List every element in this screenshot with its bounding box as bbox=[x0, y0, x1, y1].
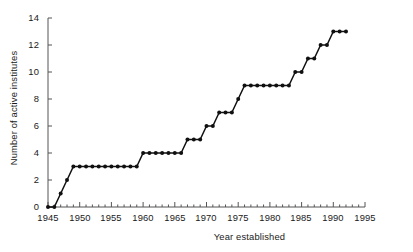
data-series bbox=[46, 30, 348, 210]
data-point-1960 bbox=[141, 151, 145, 155]
data-point-1951 bbox=[84, 165, 88, 169]
data-point-1952 bbox=[90, 165, 94, 169]
data-point-1946 bbox=[52, 205, 56, 209]
chart-figure: Number of active institutes 14 12 10 8 6… bbox=[0, 0, 413, 252]
data-point-1966 bbox=[179, 151, 183, 155]
data-point-1988 bbox=[319, 43, 323, 47]
data-point-1953 bbox=[97, 165, 101, 169]
data-point-1958 bbox=[128, 165, 132, 169]
axes bbox=[48, 18, 365, 207]
data-point-1978 bbox=[255, 84, 259, 88]
data-point-1968 bbox=[192, 138, 196, 142]
data-point-1949 bbox=[71, 165, 75, 169]
data-point-1970 bbox=[205, 124, 209, 128]
data-point-1964 bbox=[166, 151, 170, 155]
data-point-1985 bbox=[300, 70, 304, 74]
data-point-1948 bbox=[65, 178, 69, 182]
y-axis-ticks bbox=[48, 18, 52, 207]
data-point-1973 bbox=[224, 111, 228, 115]
data-point-1945 bbox=[46, 205, 50, 209]
data-point-1972 bbox=[217, 111, 221, 115]
data-point-1954 bbox=[103, 165, 107, 169]
data-point-1980 bbox=[268, 84, 272, 88]
data-point-1981 bbox=[274, 84, 278, 88]
data-point-1974 bbox=[230, 111, 234, 115]
data-point-1947 bbox=[59, 192, 63, 196]
data-point-1983 bbox=[287, 84, 291, 88]
data-point-1969 bbox=[198, 138, 202, 142]
data-point-1977 bbox=[249, 84, 253, 88]
data-point-1976 bbox=[243, 84, 247, 88]
data-point-1984 bbox=[293, 70, 297, 74]
data-point-1961 bbox=[147, 151, 151, 155]
data-point-1955 bbox=[109, 165, 113, 169]
data-point-1991 bbox=[338, 30, 342, 34]
data-point-1990 bbox=[331, 30, 335, 34]
data-point-1965 bbox=[173, 151, 177, 155]
data-point-1959 bbox=[135, 165, 139, 169]
series-markers bbox=[46, 30, 348, 210]
data-point-1963 bbox=[160, 151, 164, 155]
data-point-1975 bbox=[236, 97, 240, 101]
data-point-1962 bbox=[154, 151, 158, 155]
data-point-1957 bbox=[122, 165, 126, 169]
data-point-1989 bbox=[325, 43, 329, 47]
plot-area bbox=[0, 0, 413, 252]
data-point-1956 bbox=[116, 165, 120, 169]
series-line bbox=[48, 32, 346, 208]
data-point-1992 bbox=[344, 30, 348, 34]
x-axis-ticks bbox=[48, 202, 365, 207]
data-point-1987 bbox=[312, 57, 316, 61]
data-point-1979 bbox=[262, 84, 266, 88]
data-point-1950 bbox=[78, 165, 82, 169]
data-point-1986 bbox=[306, 57, 310, 61]
data-point-1967 bbox=[185, 138, 189, 142]
data-point-1971 bbox=[211, 124, 215, 128]
data-point-1982 bbox=[281, 84, 285, 88]
